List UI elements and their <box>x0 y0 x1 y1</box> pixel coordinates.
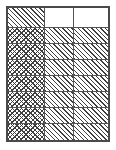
grid-cell-r6-c0 <box>8 108 45 123</box>
grid-cell-r5-c2 <box>74 92 108 107</box>
grid-row <box>8 60 108 76</box>
grid-cell-r1-c0 <box>8 28 45 43</box>
grid-cell-r6-c2 <box>74 108 108 123</box>
grid-cell-r3-c2 <box>74 60 108 75</box>
grid-cell-r6-c1 <box>45 108 74 123</box>
grid-cell-r2-c2 <box>74 44 108 59</box>
grid-cell-r1-c1 <box>45 28 74 43</box>
grid-cell-r4-c2 <box>74 76 108 91</box>
grid-cell-r1-c2 <box>74 28 108 43</box>
grid-cell-r0-c2 <box>74 8 108 27</box>
grid-cell-r0-c0 <box>8 8 45 27</box>
grid-row <box>8 76 108 92</box>
grid-cell-r5-c0 <box>8 92 45 107</box>
grid-row <box>8 44 108 60</box>
grid-cell-r3-c0 <box>8 60 45 75</box>
grid-cell-r4-c1 <box>45 76 74 91</box>
grid-cell-r7-c1 <box>45 124 74 140</box>
figure-root <box>0 0 116 150</box>
grid-cell-r5-c1 <box>45 92 74 107</box>
grid-cell-r0-c1 <box>45 8 74 27</box>
grid-cell-r4-c0 <box>8 76 45 91</box>
grid-row <box>8 108 108 124</box>
grid-cell-r7-c2 <box>74 124 108 140</box>
hatched-grid-table <box>6 6 110 142</box>
grid-cell-r2-c1 <box>45 44 74 59</box>
grid-row <box>8 124 108 140</box>
grid-cell-r2-c0 <box>8 44 45 59</box>
grid-row <box>8 92 108 108</box>
grid-row <box>8 28 108 44</box>
grid-header-row <box>8 8 108 28</box>
grid-cell-r3-c1 <box>45 60 74 75</box>
grid-cell-r7-c0 <box>8 124 45 140</box>
